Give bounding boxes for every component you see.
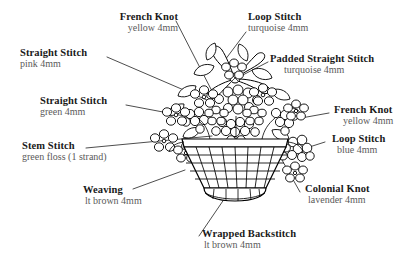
callout-title: Weaving xyxy=(83,184,142,195)
callout-title: Loop Stitch xyxy=(248,11,308,22)
callout-subtitle: green 4mm xyxy=(40,106,107,118)
callout-weaving-lt-brown: Weaving lt brown 4mm xyxy=(83,184,142,207)
callout-title: Padded Straight Stitch xyxy=(270,53,374,64)
callout-wrapped-backstitch: Wrapped Backstitch lt brown 4mm xyxy=(202,228,296,251)
callout-stem-stitch-green-floss: Stem Stitch green floss (1 strand) xyxy=(22,140,107,163)
callout-subtitle: lt brown 4mm xyxy=(83,195,142,207)
callout-subtitle: turquoise 4mm xyxy=(270,64,374,76)
basket-graphic xyxy=(182,139,288,201)
flower xyxy=(162,104,189,125)
callout-subtitle: yellow 4mm xyxy=(334,115,393,127)
callout-title: Wrapped Backstitch xyxy=(202,228,296,239)
callout-title: French Knot xyxy=(334,104,393,115)
flower xyxy=(150,130,177,151)
flower xyxy=(243,106,266,125)
callout-subtitle: lavender 4mm xyxy=(305,194,370,206)
flower xyxy=(283,162,308,182)
callout-padded-straight-stitch: Padded Straight Stitch turquoise 4mm xyxy=(270,53,374,76)
flower xyxy=(205,106,228,125)
callout-subtitle: yellow 4mm xyxy=(10,22,178,34)
callout-subtitle: turquoise 4mm xyxy=(248,22,308,34)
callout-title: Colonial Knot xyxy=(305,183,370,194)
callout-title: Straight Stitch xyxy=(40,95,107,106)
callout-subtitle: blue 4mm xyxy=(332,144,385,156)
callout-straight-stitch-pink: Straight Stitch pink 4mm xyxy=(20,47,87,70)
callout-french-knot-yellow-right: French Knot yellow 4mm xyxy=(334,104,393,127)
callout-subtitle: pink 4mm xyxy=(20,58,87,70)
callout-title: Stem Stitch xyxy=(22,140,107,151)
diagram-canvas: French Knot yellow 4mm Loop Stitch turqu… xyxy=(0,0,420,274)
callout-subtitle: green floss (1 strand) xyxy=(22,151,107,163)
callout-title: Loop Stitch xyxy=(332,133,385,144)
callout-title: French Knot xyxy=(10,11,178,22)
callout-subtitle: lt brown 4mm xyxy=(202,239,296,251)
callout-loop-stitch-turquoise: Loop Stitch turquoise 4mm xyxy=(248,11,308,34)
callout-loop-stitch-blue: Loop Stitch blue 4mm xyxy=(332,133,385,156)
callout-colonial-knot-lavender: Colonial Knot lavender 4mm xyxy=(305,183,370,206)
callout-straight-stitch-green: Straight Stitch green 4mm xyxy=(40,95,107,118)
callout-french-knot-yellow-top: French Knot yellow 4mm xyxy=(10,11,178,34)
callout-title: Straight Stitch xyxy=(20,47,87,58)
